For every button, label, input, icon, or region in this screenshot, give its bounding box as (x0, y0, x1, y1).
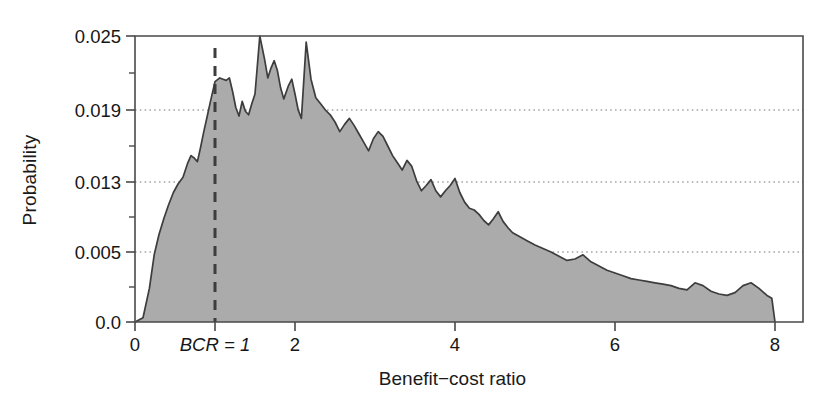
plot-area: 0.00.0050.0130.0190.025 0BCR = 12468 (0, 0, 825, 408)
bcr-annotation-label: BCR = 1 (180, 334, 250, 355)
y-tick-label: 0.025 (75, 26, 121, 47)
y-tick-label: 0.0 (95, 312, 121, 333)
x-tick-label: 0 (130, 334, 140, 355)
chart-figure: Probability 0.00.0050.0130.0190.025 0BCR… (0, 0, 825, 408)
x-axis-ticks (135, 322, 775, 331)
y-axis-ticks (126, 36, 135, 322)
x-axis-label-container: Benefit−cost ratio (0, 368, 825, 390)
x-tick-label: 8 (770, 334, 780, 355)
x-tick-label: 2 (290, 334, 300, 355)
y-tick-label: 0.005 (75, 242, 121, 263)
y-tick-label: 0.019 (75, 100, 121, 121)
x-axis-tick-labels: 0BCR = 12468 (130, 334, 780, 355)
y-tick-label: 0.013 (75, 172, 121, 193)
y-axis-tick-labels: 0.00.0050.0130.0190.025 (75, 26, 121, 333)
x-axis-label: Benefit−cost ratio (379, 368, 526, 390)
x-tick-label: 6 (610, 334, 620, 355)
x-tick-label: 4 (450, 334, 460, 355)
distribution-area (135, 36, 775, 322)
